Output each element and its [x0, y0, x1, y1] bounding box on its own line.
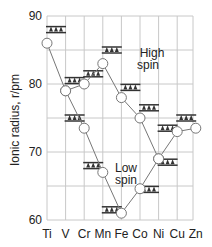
data-point — [98, 167, 108, 177]
data-point — [154, 154, 164, 164]
data-point — [61, 86, 71, 96]
x-axis-ticks: TiVCrMnFeCoNiCuZn — [42, 227, 203, 241]
x-tick-label: Cu — [170, 227, 185, 241]
high-spin-label-line2: spin — [137, 58, 159, 72]
x-tick-label: Ni — [153, 227, 164, 241]
y-tick-label: 80 — [29, 77, 43, 91]
data-point — [116, 93, 126, 103]
data-point — [79, 123, 89, 133]
x-tick-label: Zn — [189, 227, 203, 241]
y-tick-label: 70 — [29, 145, 43, 159]
x-tick-label: Mn — [94, 227, 111, 241]
data-point — [79, 79, 89, 89]
data-point — [98, 59, 108, 69]
x-tick-label: Fe — [114, 227, 128, 241]
orbital-diagram-fe-high — [120, 84, 140, 90]
y-axis-ticks: 60708090 — [29, 9, 43, 227]
data-point — [116, 208, 126, 218]
x-tick-label: Co — [132, 227, 148, 241]
data-point — [135, 113, 145, 123]
data-point — [172, 127, 182, 137]
data-point — [42, 38, 52, 48]
x-tick-label: V — [62, 227, 70, 241]
y-axis-label: Ionic radius, r/pm — [8, 74, 22, 166]
y-tick-label: 90 — [29, 9, 43, 23]
y-tick-label: 60 — [29, 213, 43, 227]
x-tick-label: Cr — [78, 227, 91, 241]
ionic-radius-chart: 60708090 TiVCrMnFeCoNiCuZn Ionic radius,… — [0, 0, 212, 247]
low-spin-label-line2: spin — [115, 173, 137, 187]
orbital-diagram-ti-high — [46, 27, 66, 33]
x-tick-label: Ti — [42, 227, 52, 241]
orbital-diagram-co-high — [139, 105, 159, 111]
data-point — [191, 123, 201, 133]
